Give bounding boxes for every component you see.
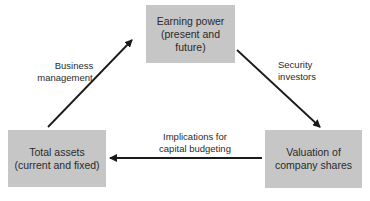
edge-label-capital-budgeting-line2: capital budgeting (140, 143, 250, 155)
node-valuation-line2: company shares (275, 159, 352, 172)
edge-label-capital-budgeting: Implications for capital budgeting (140, 131, 250, 155)
node-earning-power-line2: (present and future) (146, 28, 235, 54)
edge-label-security-investors: Security investors (278, 59, 338, 83)
node-total-assets-line1: Total assets (29, 146, 84, 159)
edge-label-capital-budgeting-line1: Implications for (140, 131, 250, 143)
edge-label-business-management-line2: management (22, 72, 108, 84)
edge-label-business-management: Business management (22, 60, 108, 84)
edge-label-security-investors-line1: Security (278, 59, 338, 71)
edge-label-security-investors-line2: investors (278, 71, 338, 83)
node-total-assets-line2: (current and fixed) (14, 159, 99, 172)
node-valuation: Valuation of company shares (265, 130, 362, 188)
node-valuation-line1: Valuation of (286, 146, 341, 159)
edge-label-business-management-line1: Business (22, 60, 108, 72)
node-total-assets: Total assets (current and fixed) (8, 130, 106, 187)
node-earning-power-line1: Earning power (157, 15, 225, 28)
node-earning-power: Earning power (present and future) (146, 5, 235, 63)
